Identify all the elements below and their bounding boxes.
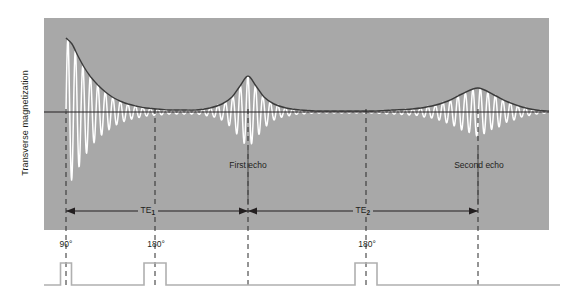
fid-signal-group — [66, 40, 549, 180]
first-echo-label: First echo — [212, 160, 284, 170]
te2-subscript: 2 — [366, 209, 370, 216]
second-echo-label: Second echo — [440, 160, 518, 170]
pulse-sequence-waveform — [44, 263, 560, 285]
pulse-90-label: 90° — [50, 239, 82, 249]
interval-arrows — [66, 208, 478, 215]
te1-label: TE1 — [138, 205, 158, 216]
interval-arrowhead — [248, 208, 257, 215]
te1-text: TE — [141, 205, 152, 215]
pulse-180-second-label: 180° — [349, 239, 385, 249]
te2-text: TE — [356, 205, 367, 215]
envelope-group — [66, 38, 549, 111]
te2-label: TE2 — [353, 205, 373, 216]
rf-pulse-train-path — [44, 263, 560, 285]
interval-arrowhead — [239, 208, 248, 215]
interval-arrowhead — [66, 208, 75, 215]
pulse-180-first-label: 180° — [138, 239, 174, 249]
event-marker-lines — [66, 109, 478, 285]
interval-arrowhead — [469, 208, 478, 215]
spin-echo-figure: Transverse magnetization First echo Seco… — [0, 0, 572, 293]
t2-decay-envelope-upper — [66, 38, 549, 111]
signal-plot — [0, 0, 572, 293]
te1-subscript: 1 — [151, 209, 155, 216]
fid-oscillation-path — [66, 40, 549, 180]
